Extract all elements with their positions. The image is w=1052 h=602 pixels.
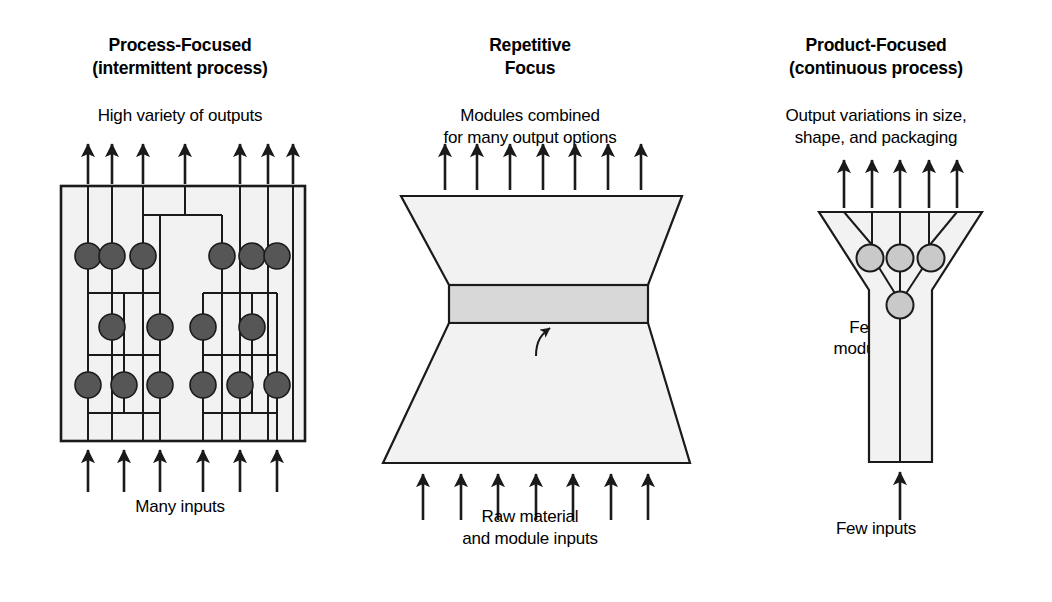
raw-material-lower-trapezoid: [383, 323, 690, 463]
panel-product-focused: Product-Focused (continuous process) Out…: [700, 0, 1052, 602]
work-center-node: [190, 314, 216, 340]
work-center-node: [227, 372, 253, 398]
bottom-caption-line-1: Raw material: [360, 506, 700, 528]
work-center-node: [75, 243, 101, 269]
bottom-caption-line-2: and module inputs: [360, 528, 700, 550]
bottom-caption-product-focused: Few inputs: [700, 518, 1052, 540]
diagram-canvas: Process-Focused (intermittent process) H…: [0, 0, 1052, 602]
module-combination-upper-trapezoid: [401, 196, 682, 285]
work-center-node: [239, 314, 265, 340]
panel-process-focused: Process-Focused (intermittent process) H…: [0, 0, 360, 602]
process-node: [857, 245, 884, 272]
output-arrows-group: [88, 144, 293, 184]
work-center-node: [147, 372, 173, 398]
work-center-node: [209, 243, 235, 269]
process-node: [918, 245, 945, 272]
work-center-node: [111, 372, 137, 398]
bottom-caption-repetitive-focus: Raw material and module inputs: [360, 506, 700, 550]
bottom-caption-line-1: Many inputs: [0, 496, 360, 518]
work-center-node: [190, 372, 216, 398]
work-center-node: [130, 243, 156, 269]
product-focused-artwork: [700, 0, 1052, 602]
few-modules-band: [449, 285, 648, 323]
process-node: [887, 245, 914, 272]
work-center-node: [264, 372, 290, 398]
output-arrows-group: [445, 144, 641, 190]
work-center-node: [99, 314, 125, 340]
panel-repetitive-focus: Repetitive Focus Modules combined for ma…: [360, 0, 700, 602]
work-center-node: [75, 372, 101, 398]
work-center-node: [239, 243, 265, 269]
work-center-node: [264, 243, 290, 269]
output-arrows-group: [844, 160, 957, 208]
work-center-node: [147, 314, 173, 340]
bottom-caption-line-1: Few inputs: [700, 518, 1052, 540]
work-center-node: [99, 243, 125, 269]
process-node: [887, 292, 914, 319]
bottom-caption-process-focused: Many inputs: [0, 496, 360, 518]
input-arrows-group: [88, 450, 277, 492]
